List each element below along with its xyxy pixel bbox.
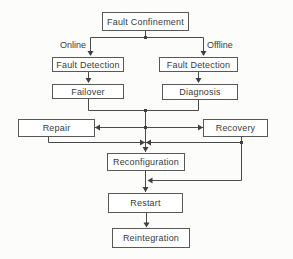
arrowhead-into-reintegration	[144, 223, 150, 228]
arrowhead-into-diagnosis	[196, 78, 202, 83]
node-fault-confinement: Fault Confinement	[102, 12, 189, 31]
node-reintegration: Reintegration	[112, 228, 190, 248]
node-fault-detection-online: Fault Detection	[52, 57, 124, 72]
edge-branch-offline	[146, 38, 204, 56]
branch-label-offline: Offline	[207, 40, 233, 50]
arrowhead-bypass-into-spine	[148, 178, 153, 184]
arrowhead-into-repair	[95, 125, 100, 131]
arrowhead-into-fd-online	[88, 51, 94, 56]
junction-dot-crossbar	[144, 126, 147, 129]
arrowhead-into-failover	[86, 78, 92, 83]
branch-label-online: Online	[50, 40, 86, 50]
arrowhead-into-reconfiguration	[143, 147, 149, 152]
node-repair: Repair	[18, 119, 95, 137]
node-failover: Failover	[52, 84, 124, 99]
node-reconfiguration: Reconfiguration	[107, 153, 185, 171]
arrowhead-into-restart	[143, 187, 149, 192]
node-restart: Restart	[108, 193, 183, 213]
arrowhead-recovery-into-spine	[146, 140, 151, 146]
node-fault-detection-offline: Fault Detection	[159, 57, 238, 72]
node-diagnosis: Diagnosis	[162, 84, 238, 100]
edge-merge-bracket	[89, 99, 199, 111]
arrowhead-into-fd-offline	[201, 51, 207, 56]
edge-branch-online	[91, 38, 146, 56]
node-recovery: Recovery	[203, 119, 268, 137]
flowchart-canvas: Fault Confinement Online Offline Fault D…	[0, 0, 293, 259]
arrowhead-repair-into-spine	[140, 140, 145, 146]
